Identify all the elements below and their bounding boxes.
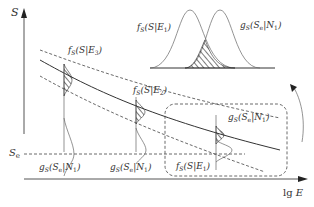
mean-curve (40, 60, 280, 150)
y-axis (21, 8, 27, 134)
diagram-canvas: S lg E Se fS(S|E3) fS(S|E2) fS(S|E1) (0, 0, 314, 207)
inset-signal-curve (150, 10, 235, 68)
threshold-label: Se (9, 147, 20, 160)
label-fs-e3: fS(S|E3) (67, 45, 103, 56)
x-axis (24, 176, 308, 182)
label-gs-n1-left: gS(Se|N1) (39, 162, 81, 173)
noise-dist-mid (136, 128, 146, 164)
label-fs-e1-box: fS(S|E1) (175, 161, 211, 172)
label-gs-n1-mid: gS(Se|N1) (110, 162, 152, 173)
inset-overlap-area (185, 40, 235, 68)
inset-overlap-plot (150, 10, 275, 68)
upper-bound-curve (40, 50, 280, 118)
x-axis-arrow-icon (298, 176, 308, 182)
label-gs-n1-box: gS(Se|N1) (228, 112, 270, 123)
label-gs-n1-inset: gS(Se|N1) (240, 20, 282, 31)
zoom-arrow-head-icon (290, 84, 297, 92)
y-axis-label: S (11, 6, 19, 19)
zoom-arrow (294, 88, 303, 142)
signal-dist-e2 (136, 100, 145, 124)
x-axis-label: lg E (283, 187, 304, 198)
y-axis-arrow-icon (21, 8, 27, 18)
label-fs-e1-inset: fS(S|E1) (136, 22, 172, 33)
label-fs-e2: fS(S|E2) (132, 85, 168, 96)
noise-dist-box (216, 140, 232, 162)
